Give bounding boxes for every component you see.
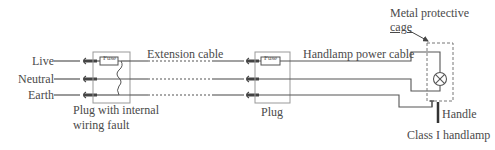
label-earth: Earth [28, 89, 54, 101]
label-metal-cage-1: Metal protective [390, 7, 469, 19]
left-socket-connectors [84, 58, 98, 98]
label-live: Live [32, 55, 54, 67]
label-class-handlamp: Class I handlamp [407, 129, 490, 141]
internal-fault-wire [117, 61, 130, 95]
label-plug-fault-1: Plug with internal [73, 104, 159, 116]
label-plug-fault-2: wiring fault [73, 119, 129, 131]
label-plug: Plug [261, 106, 283, 118]
label-extension-cable: Extension cable [147, 48, 223, 60]
lamp-icon [434, 73, 447, 86]
extension-cable [130, 61, 244, 95]
label-handle: Handle [442, 108, 477, 120]
fuse-left-label: Fuse [103, 55, 116, 62]
label-metal-cage-2: cage [390, 21, 412, 33]
right-socket-connectors [247, 58, 260, 98]
fuse-right-label: Fuse [264, 55, 277, 62]
label-handlamp-power-cable: Handlamp power cable [303, 48, 414, 60]
supply-leads [54, 61, 80, 95]
label-neutral: Neutral [18, 73, 54, 85]
